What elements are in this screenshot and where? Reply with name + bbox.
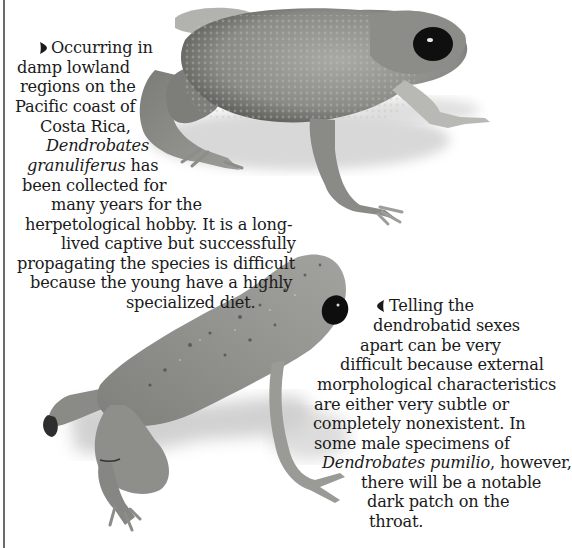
caption-line: apart can be very	[360, 336, 501, 356]
caption-line: completely nonexistent. In	[313, 414, 526, 434]
caption-line: there will be a notable	[361, 473, 541, 493]
caption-line: some male specimens of	[314, 434, 510, 454]
caption-line: are either very subtle or	[314, 395, 509, 415]
species-name: Dendrobates pumilio	[322, 453, 490, 472]
caption-line: Telling the	[377, 296, 474, 316]
caption-line: dendrobatid sexes	[373, 316, 520, 336]
caption-line: difficult because external	[340, 355, 544, 375]
caption-line: morphological characteristics	[317, 375, 556, 395]
caption-line: throat.	[369, 512, 423, 532]
left-bullet-icon	[377, 300, 385, 312]
caption-line: Dendrobates pumilio, however,	[322, 453, 572, 473]
caption-line: dark patch on the	[367, 492, 509, 512]
